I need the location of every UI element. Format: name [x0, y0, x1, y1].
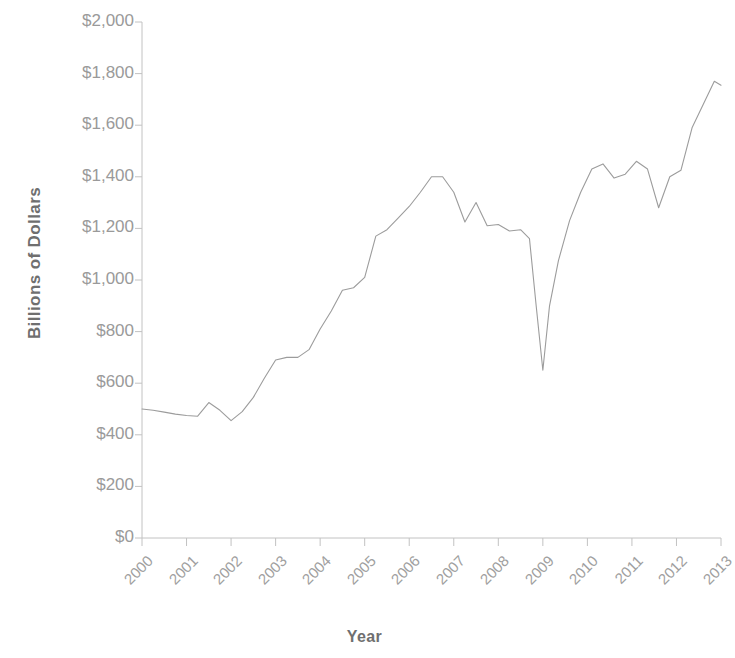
data-series-line — [142, 81, 721, 420]
y-axis-ticks — [135, 22, 142, 538]
axis-lines — [142, 22, 721, 538]
x-axis-ticks — [142, 538, 721, 546]
x-axis-title: Year — [0, 628, 729, 646]
